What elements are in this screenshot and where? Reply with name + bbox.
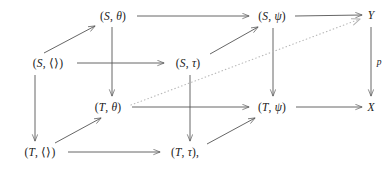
node-label: (T, ⟨⟩) — [24, 146, 55, 158]
node-t-psi: (T, ψ) — [258, 101, 286, 113]
node-s-empty: (S, ⟨⟩) — [33, 56, 64, 70]
node-label: X — [367, 101, 374, 113]
node-s-tau: (S, τ) — [176, 57, 201, 69]
edge-spsi-to-y — [295, 15, 362, 16]
edge-stau-to-spsi — [210, 27, 258, 54]
edge-sempty-to-stheta — [44, 26, 95, 53]
edge-label-p: p — [377, 57, 382, 67]
node-label: (S, θ) — [100, 10, 126, 22]
node-t-tau: (T, τ), — [171, 146, 199, 158]
commutative-diagram: (S, ⟨⟩) (S, θ) (S, τ) (S, ψ) (T, ⟨⟩) (T,… — [0, 0, 390, 172]
node-x: X — [367, 101, 374, 113]
node-label: (T, θ) — [95, 101, 122, 113]
node-t-empty: (T, ⟨⟩) — [24, 145, 55, 159]
edge-ttau-to-tpsi — [207, 118, 255, 144]
node-label: Y — [368, 9, 375, 21]
node-label: (T, τ), — [171, 146, 199, 158]
edge-tempty-to-ttheta — [55, 118, 101, 143]
node-s-theta: (S, θ) — [100, 10, 126, 22]
node-y: Y — [368, 9, 375, 21]
node-label: (T, ψ) — [258, 101, 286, 113]
node-label: (S, τ) — [176, 57, 201, 69]
node-label: (S, ψ) — [258, 10, 286, 22]
edge-ttheta-to-y-dotted — [131, 19, 360, 105]
node-label: (S, ⟨⟩) — [33, 57, 64, 69]
node-s-psi: (S, ψ) — [258, 10, 286, 22]
node-t-theta: (T, θ) — [95, 101, 122, 113]
